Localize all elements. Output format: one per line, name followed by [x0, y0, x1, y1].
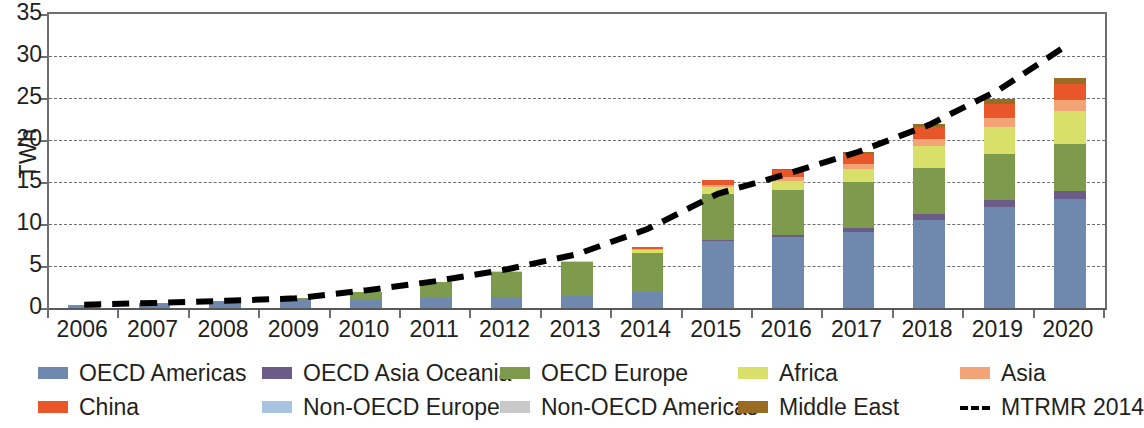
x-tick-label: 2016 — [748, 318, 824, 341]
bar-segment[interactable] — [772, 190, 804, 235]
legend-item[interactable]: Asia — [960, 358, 1046, 388]
bar-segment[interactable] — [913, 220, 945, 308]
legend-item[interactable]: Non-OECD Americas — [500, 392, 758, 422]
bar-segment[interactable] — [632, 292, 664, 308]
bar-segment[interactable] — [772, 169, 804, 170]
bar-group[interactable] — [491, 14, 523, 308]
bar-group[interactable] — [843, 14, 875, 308]
legend-item[interactable]: OECD Americas — [38, 358, 246, 388]
bar-group[interactable] — [68, 14, 100, 308]
bar-group[interactable] — [632, 14, 664, 308]
bar-segment[interactable] — [632, 247, 664, 250]
bar-segment[interactable] — [491, 297, 523, 308]
bar-segment[interactable] — [420, 282, 452, 298]
bar-segment[interactable] — [702, 240, 734, 241]
legend-item[interactable]: Africa — [738, 358, 838, 388]
bar-segment[interactable] — [1054, 144, 1086, 191]
legend-item[interactable]: Middle East — [738, 392, 899, 422]
bar-segment[interactable] — [1054, 191, 1086, 199]
bar-segment[interactable] — [772, 235, 804, 237]
bar-segment[interactable] — [139, 304, 171, 308]
bar-segment[interactable] — [702, 180, 734, 185]
x-tick-label: 2008 — [185, 318, 261, 341]
legend-item[interactable]: OECD Europe — [500, 358, 688, 388]
bar-segment[interactable] — [1054, 78, 1086, 84]
bar-segment[interactable] — [772, 237, 804, 308]
legend-swatch-icon — [960, 367, 990, 379]
bar-segment[interactable] — [843, 169, 875, 183]
bar-segment[interactable] — [420, 298, 452, 308]
bar-segment[interactable] — [772, 181, 804, 190]
bar-segment[interactable] — [702, 241, 734, 308]
x-tick-label: 2014 — [607, 318, 683, 341]
bar-segment[interactable] — [280, 298, 312, 300]
bar-segment[interactable] — [561, 261, 593, 295]
y-tick-label: 30 — [0, 43, 42, 66]
bar-segment[interactable] — [772, 170, 804, 177]
y-tick-label: 10 — [0, 211, 42, 234]
bar-segment[interactable] — [984, 127, 1016, 154]
bar-segment[interactable] — [843, 152, 875, 154]
bar-group[interactable] — [772, 14, 804, 308]
bar-segment[interactable] — [632, 249, 664, 250]
bar-segment[interactable] — [632, 253, 664, 293]
bar-segment[interactable] — [209, 302, 241, 308]
bar-segment[interactable] — [702, 185, 734, 187]
bar-segment[interactable] — [1054, 111, 1086, 143]
bar-segment[interactable] — [632, 250, 664, 253]
bar-segment[interactable] — [843, 182, 875, 227]
bar-segment[interactable] — [68, 305, 100, 308]
bar-segment[interactable] — [913, 139, 945, 146]
bar-segment[interactable] — [702, 194, 734, 240]
bar-segment[interactable] — [913, 127, 945, 139]
bar-group[interactable] — [420, 14, 452, 308]
bar-segment[interactable] — [280, 300, 312, 308]
legend-swatch-icon — [500, 367, 530, 379]
bar-group[interactable] — [561, 14, 593, 308]
bar-segment[interactable] — [984, 154, 1016, 200]
bar-segment[interactable] — [913, 214, 945, 220]
bar-group[interactable] — [350, 14, 382, 308]
bar-segment[interactable] — [843, 228, 875, 233]
bar-group[interactable] — [1054, 14, 1086, 308]
legend-label: Middle East — [779, 396, 899, 419]
y-tick-label: 5 — [0, 253, 42, 276]
bar-group[interactable] — [702, 14, 734, 308]
bar-segment[interactable] — [772, 177, 804, 181]
bar-group[interactable] — [984, 14, 1016, 308]
bar-segment[interactable] — [139, 303, 171, 304]
bar-segment[interactable] — [702, 187, 734, 194]
bar-segment[interactable] — [843, 154, 875, 164]
bar-segment[interactable] — [913, 146, 945, 167]
bar-segment[interactable] — [561, 296, 593, 308]
bar-segment[interactable] — [913, 124, 945, 127]
legend-item[interactable]: China — [38, 392, 139, 422]
bar-segment[interactable] — [350, 300, 382, 308]
legend-item[interactable]: OECD Asia Oceania — [262, 358, 511, 388]
bar-segment[interactable] — [843, 164, 875, 169]
bar-segment[interactable] — [984, 104, 1016, 118]
bar-group[interactable] — [280, 14, 312, 308]
bar-segment[interactable] — [1054, 100, 1086, 111]
bar-group[interactable] — [139, 14, 171, 308]
x-tick-label: 2013 — [537, 318, 613, 341]
x-tick-mark — [681, 310, 683, 318]
bar-segment[interactable] — [491, 271, 523, 297]
bar-group[interactable] — [209, 14, 241, 308]
bar-segment[interactable] — [1054, 199, 1086, 308]
bar-group[interactable] — [913, 14, 945, 308]
bar-segment[interactable] — [984, 99, 1016, 104]
legend-item[interactable]: Non-OECD Europe — [262, 392, 500, 422]
bar-segment[interactable] — [350, 292, 382, 300]
legend-label: OECD Americas — [79, 362, 246, 385]
bar-segment[interactable] — [984, 118, 1016, 127]
bar-segment[interactable] — [984, 207, 1016, 308]
bar-segment[interactable] — [843, 232, 875, 308]
bar-segment[interactable] — [561, 261, 593, 262]
bar-segment[interactable] — [209, 301, 241, 302]
bar-segment[interactable] — [1054, 84, 1086, 100]
legend-item[interactable]: MTRMR 2014 — [960, 392, 1144, 422]
bar-segment[interactable] — [984, 200, 1016, 207]
bar-segment[interactable] — [913, 168, 945, 214]
x-tick-mark — [117, 310, 119, 318]
